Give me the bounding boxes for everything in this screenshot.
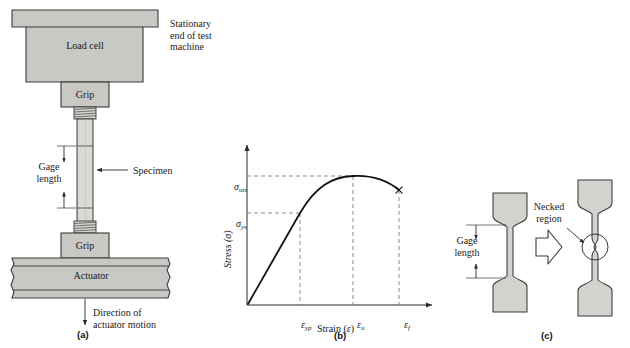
xtick-eps-f: εf	[394, 307, 410, 345]
grip-top-label: Grip	[64, 89, 106, 101]
load-cell-label: Load cell	[46, 40, 124, 52]
figure-root: Load cell Grip Grip Actuator Stationary …	[0, 0, 630, 348]
specimen-shape	[77, 119, 93, 233]
specimen-thread-bottom	[74, 221, 96, 233]
specimen-label: Specimen	[133, 165, 172, 177]
panel-b-axes	[247, 145, 432, 305]
panel-label-b: (b)	[334, 330, 346, 341]
gage-length-label-c: Gage length	[446, 235, 488, 258]
xtick-eps-u: εu	[347, 307, 364, 345]
specimen-necked-shape	[578, 180, 612, 316]
stationary-end-note: Stationary end of test machine	[170, 18, 212, 53]
transformation-arrow-icon	[536, 230, 562, 264]
grip-bottom-label: Grip	[64, 240, 106, 252]
stress-strain-curve	[248, 176, 399, 304]
necked-region-label: Necked region	[525, 201, 573, 224]
specimen-thread-top	[74, 107, 96, 119]
actuator-label: Actuator	[52, 270, 130, 282]
specimen-undeformed-shape	[493, 193, 527, 312]
panel-label-c: (c)	[541, 330, 553, 341]
panel-a-graphics	[0, 0, 630, 348]
ytick-sigma-ys: σys	[226, 206, 247, 244]
gage-length-label-a: Gage length	[30, 161, 68, 184]
panel-b-guides	[247, 176, 399, 305]
necked-region-callout-arrow	[567, 228, 584, 243]
ytick-sigma-uts: σuts	[224, 169, 247, 207]
actuator-direction-note: Direction of actuator motion	[93, 307, 156, 330]
panel-label-a: (a)	[77, 329, 89, 340]
xtick-eps-yp: εyp	[291, 307, 312, 345]
